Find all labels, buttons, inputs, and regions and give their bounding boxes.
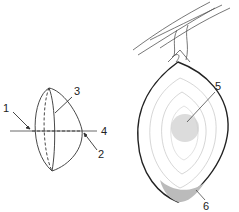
label-2: 2 [98,148,104,160]
leader-5 [187,92,215,122]
lens-hidden-curve [44,88,52,171]
label-5: 5 [215,80,221,92]
lens-left-edge [35,88,52,171]
branch [133,2,230,62]
label-3: 3 [74,85,80,97]
label-6: 6 [203,200,209,212]
arrow-1-icon [26,126,30,129]
lens-figure [10,88,97,171]
leader-6 [196,190,205,200]
base-shading [160,180,205,202]
leader-3 [55,97,72,113]
diagram-canvas: 1 2 3 4 5 6 [0,0,239,212]
label-1: 1 [3,102,9,114]
label-4: 4 [101,125,107,137]
lens-inner-curve [49,88,55,171]
